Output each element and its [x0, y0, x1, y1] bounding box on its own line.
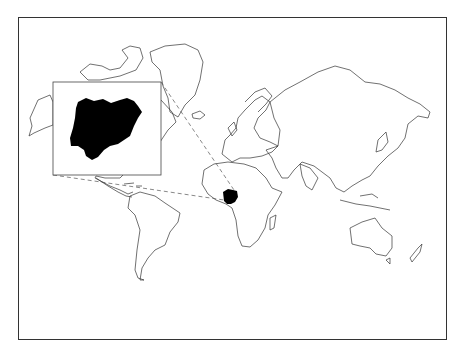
india — [300, 164, 318, 190]
new-zealand — [410, 244, 422, 262]
asia — [266, 66, 430, 192]
australia — [350, 218, 392, 256]
europe — [222, 96, 278, 162]
japan — [376, 132, 388, 152]
leader-line-bottom — [53, 175, 224, 200]
leader-line-top — [161, 82, 234, 190]
tasmania — [386, 258, 390, 264]
iceland — [192, 111, 205, 119]
alaska — [29, 95, 53, 136]
caribbean — [124, 183, 142, 186]
british-isles — [228, 122, 237, 136]
scandinavia — [245, 88, 272, 112]
canadian-arctic-islands — [80, 46, 143, 80]
southeast-asia-islands — [340, 194, 390, 210]
madagascar — [270, 215, 276, 230]
africa — [202, 162, 282, 247]
world-map — [0, 0, 461, 357]
nigeria-highlight — [223, 189, 238, 204]
south-america — [128, 192, 180, 280]
